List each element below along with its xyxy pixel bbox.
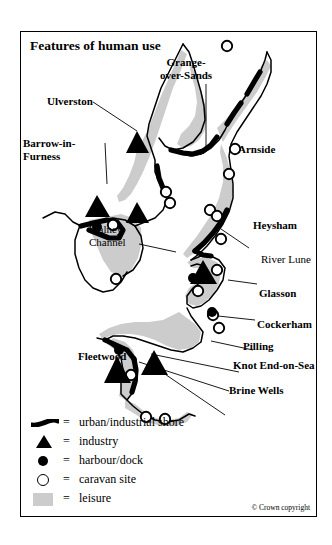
map-label-barrow-in-furness: Barrow-in- Furness: [23, 137, 75, 162]
triangle-glyph: [36, 435, 52, 448]
urban-industrial-shore-icon: [29, 413, 63, 432]
legend-label-urban-industrial-shore: urban/industrial shore: [79, 415, 184, 430]
map-label-cockerham: Cockerham: [257, 318, 312, 331]
map-label-fleetwood: Fleetwood: [78, 350, 126, 363]
map-label-arnside: Arnside: [238, 143, 275, 156]
copyright-notice: © Crown copyright: [251, 503, 310, 512]
legend-item-industry: = industry: [29, 432, 259, 451]
map-legend: = urban/industrial shore = industry = ha…: [29, 413, 259, 508]
industry-triangle-icon: [29, 432, 63, 451]
legend-label-leisure: leisure: [79, 491, 111, 506]
grey-swatch-glyph: [33, 493, 53, 506]
legend-label-industry: industry: [79, 434, 118, 449]
map-label-brine-wells: Brine Wells: [229, 384, 284, 397]
map-label-heysham: Heysham: [253, 219, 297, 232]
legend-item-leisure: = leisure: [29, 489, 259, 508]
legend-equals-sign: =: [63, 453, 79, 468]
legend-item-urban-industrial-shore: = urban/industrial shore: [29, 413, 259, 432]
open-circle-glyph: [37, 474, 49, 486]
map-label-glasson: Glasson: [259, 287, 296, 300]
legend-item-caravan-site: = caravan site: [29, 470, 259, 489]
shore-stroke-glyph: [31, 419, 59, 427]
legend-label-harbour-dock: harbour/dock: [79, 453, 143, 468]
map-label-river-lune: River Lune: [261, 253, 311, 266]
legend-label-caravan-site: caravan site: [79, 472, 136, 487]
map-label-ulverston: Ulverston: [47, 95, 93, 108]
harbour-dock-icon: [29, 451, 63, 470]
map-figure-frame: Features of human use: [20, 31, 317, 517]
map-label-knot-end-on-sea: Knot End-on-Sea: [233, 359, 315, 372]
legend-equals-sign: =: [63, 472, 79, 487]
map-label-pilling: Pilling: [243, 340, 274, 353]
caravan-site-icon: [29, 470, 63, 489]
legend-equals-sign: =: [63, 491, 79, 506]
filled-circle-glyph: [38, 456, 48, 466]
legend-item-harbour-dock: = harbour/dock: [29, 451, 259, 470]
legend-equals-sign: =: [63, 434, 79, 449]
map-label-grange-over-sands: Grange- over-Sands: [160, 56, 212, 81]
leisure-swatch-icon: [29, 489, 63, 508]
legend-equals-sign: =: [63, 415, 79, 430]
map-label-walney-channel: Walney Channel: [89, 223, 126, 248]
